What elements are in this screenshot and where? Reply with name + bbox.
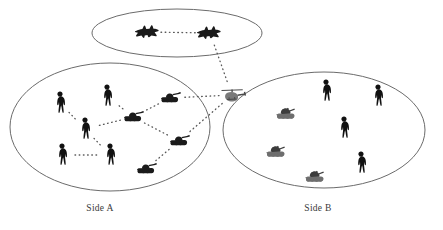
unit-soldier-b-sold-3[interactable] bbox=[341, 117, 349, 138]
link-a-tank-2-to-a-sold-2 bbox=[117, 104, 123, 109]
link-a-sold-1-to-a-sold-3 bbox=[69, 112, 76, 119]
unit-soldier-a-sold-5[interactable] bbox=[107, 144, 115, 165]
link-a-tank-3-to-a-tank-4 bbox=[156, 149, 169, 160]
link-a-tank-2-to-a-tank-3 bbox=[145, 123, 168, 135]
figure-canvas: Side A Side B bbox=[0, 0, 443, 230]
link-a-sold-3-to-a-sold-5 bbox=[94, 138, 101, 145]
unit-soldier-a-sold-4[interactable] bbox=[59, 144, 67, 165]
group-label-side-a: Side A bbox=[86, 203, 113, 213]
link-jet-1-to-jet-2 bbox=[161, 32, 197, 33]
group-ellipse-air-group[interactable] bbox=[92, 9, 262, 57]
unit-tank-a-tank-4[interactable] bbox=[137, 163, 157, 173]
link-jet-2-to-heli-1 bbox=[214, 45, 227, 83]
unit-jet-jet-1[interactable] bbox=[135, 25, 159, 38]
unit-jet-jet-2[interactable] bbox=[197, 26, 221, 39]
unit-soldier-b-sold-4[interactable] bbox=[358, 152, 366, 173]
link-a-tank-2-to-a-sold-3 bbox=[98, 120, 121, 126]
link-heli-1-to-a-tank-1 bbox=[183, 96, 219, 98]
unit-artillery-b-art-1[interactable] bbox=[276, 108, 294, 119]
unit-tank-a-tank-3[interactable] bbox=[170, 135, 190, 145]
unit-soldier-b-sold-2[interactable] bbox=[375, 85, 383, 106]
group-label-side-b: Side B bbox=[304, 203, 331, 213]
unit-soldier-a-sold-2[interactable] bbox=[104, 85, 112, 106]
unit-artillery-b-art-3[interactable] bbox=[305, 171, 323, 182]
unit-layer bbox=[57, 25, 383, 182]
unit-artillery-b-art-2[interactable] bbox=[266, 146, 284, 157]
unit-soldier-b-sold-1[interactable] bbox=[323, 80, 331, 101]
unit-tank-a-tank-1[interactable] bbox=[161, 92, 181, 102]
diagram-svg: Side A Side B bbox=[0, 0, 443, 230]
unit-soldier-a-sold-1[interactable] bbox=[57, 92, 65, 113]
unit-tank-a-tank-2[interactable] bbox=[124, 111, 144, 121]
group-ellipse-side-a[interactable] bbox=[10, 63, 210, 191]
link-layer bbox=[69, 32, 228, 160]
link-a-tank-1-to-a-tank-2 bbox=[145, 104, 159, 111]
unit-soldier-a-sold-3[interactable] bbox=[82, 118, 90, 139]
